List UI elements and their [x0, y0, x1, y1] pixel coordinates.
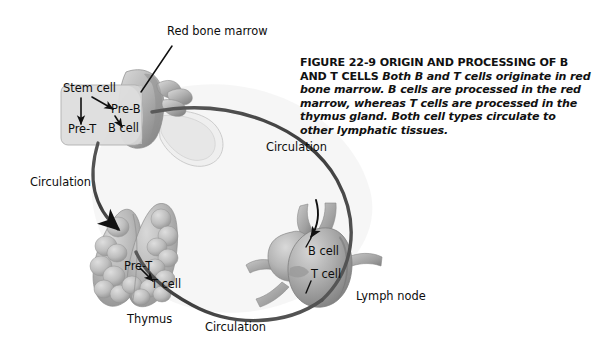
label-circulation-right: Circulation — [266, 142, 327, 153]
label-b-cell-node: B cell — [308, 246, 339, 257]
label-thymus: Thymus — [127, 314, 172, 325]
label-stem-cell: Stem cell — [63, 83, 116, 94]
label-red-bone-marrow: Red bone marrow — [167, 26, 268, 37]
label-pre-b: Pre-B — [111, 104, 141, 115]
label-lymph-node: Lymph node — [356, 291, 426, 302]
figure-22-9: FIGURE 22-9 ORIGIN AND PROCESSING OF B A… — [0, 0, 600, 345]
figure-caption: FIGURE 22-9 ORIGIN AND PROCESSING OF B A… — [300, 56, 592, 138]
label-circulation-bottom: Circulation — [205, 322, 266, 333]
diagram-artwork — [0, 0, 600, 345]
label-b-cell-marrow: B cell — [108, 123, 139, 134]
label-pre-t-marrow: Pre-T — [68, 124, 96, 135]
label-circulation-left: Circulation — [30, 177, 91, 188]
label-t-cell-node: T cell — [311, 269, 341, 280]
label-pre-t-thymus: Pre-T — [124, 261, 152, 272]
label-t-cell-thymus: T cell — [151, 279, 181, 290]
